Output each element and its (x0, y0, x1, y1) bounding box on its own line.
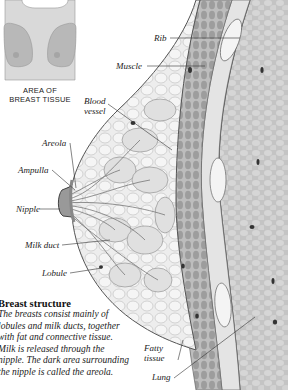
description-line: lobules and milk ducts, together (0, 321, 148, 333)
inset-caption: AREA OF BREAST TISSUE (0, 86, 80, 104)
label-rib: Rib (154, 33, 167, 43)
label-lobule: Lobule (42, 268, 67, 278)
description-block: Breast structure The breasts consist mai… (0, 298, 148, 378)
label-milk-duct: Milk duct (25, 240, 59, 250)
label-ampulla: Ampulla (18, 165, 49, 175)
label-nipple: Nipple (16, 204, 40, 214)
label-muscle: Muscle (116, 61, 142, 71)
label-blood-vessel: Blood vessel (84, 96, 106, 116)
description-line: Milk is released through the (0, 344, 148, 356)
description-line: The breasts consist mainly of (0, 309, 148, 321)
label-lung: Lung (152, 372, 171, 382)
label-areola: Areola (42, 138, 66, 148)
description-line: nipple. The dark area surrounding (0, 355, 148, 367)
inset-torso-figure (4, 0, 76, 80)
description-title: Breast structure (0, 298, 148, 309)
description-line: the nipple is called the areola. (0, 367, 148, 379)
description-line: with fat and connective tissue. (0, 332, 148, 344)
